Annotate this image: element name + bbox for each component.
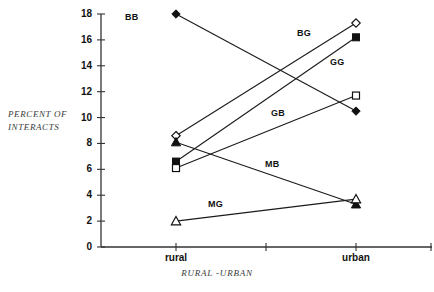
data-point-BB-rural — [172, 10, 180, 18]
y-tick-label-14: 14 — [70, 60, 92, 71]
series-markers-group — [171, 10, 360, 225]
chart-plot-svg — [0, 0, 434, 292]
y-tick-label-2: 2 — [70, 215, 92, 226]
data-point-GG-urban — [353, 34, 360, 41]
series-line-GG — [176, 37, 356, 161]
y-tick-label-4: 4 — [70, 189, 92, 200]
y-tick-label-12: 12 — [70, 86, 92, 97]
axes — [101, 14, 432, 247]
series-line-GB — [176, 96, 356, 168]
data-point-MG-urban — [351, 195, 360, 203]
series-line-MG — [176, 199, 356, 221]
series-line-BG — [176, 23, 356, 136]
y-tick-label-8: 8 — [70, 137, 92, 148]
series-line-BB — [176, 14, 356, 111]
series-line-MB — [176, 142, 356, 204]
series-label-MG: MG — [208, 199, 223, 209]
series-lines-group — [176, 14, 356, 221]
series-label-BG: BG — [297, 28, 311, 38]
series-label-MB: MB — [265, 159, 280, 169]
series-label-GG: GG — [330, 57, 345, 67]
series-label-GB: GB — [271, 108, 285, 118]
x-tick-label-urban: urban — [326, 252, 386, 263]
data-point-GB-rural — [173, 165, 180, 172]
data-point-MB-rural — [171, 138, 180, 146]
data-point-BG-urban — [352, 19, 360, 27]
y-tick-label-16: 16 — [70, 34, 92, 45]
y-tick-label-10: 10 — [70, 112, 92, 123]
series-label-BB: BB — [125, 12, 139, 22]
y-tick-label-18: 18 — [70, 8, 92, 19]
y-tick-label-6: 6 — [70, 163, 92, 174]
data-point-BB-urban — [352, 107, 360, 115]
y-tick-label-0: 0 — [70, 241, 92, 252]
data-point-GB-urban — [353, 92, 360, 99]
x-tick-label-rural: rural — [146, 252, 206, 263]
chart-container: PERCENT OF INTERACTS RURAL -URBAN 024681… — [0, 0, 434, 292]
